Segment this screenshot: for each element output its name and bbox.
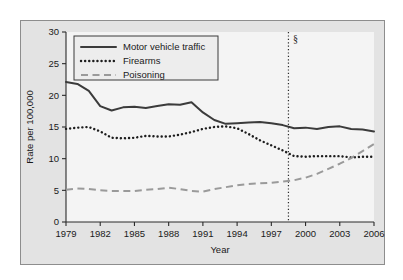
y-tick-label: 20 (48, 90, 59, 101)
legend-label-firearms: Firearms (123, 55, 161, 66)
x-tick-label: 1994 (227, 228, 248, 239)
line-chart: 051015202530 197919821985198819911994199… (0, 0, 403, 280)
y-axis-ticks: 051015202530 (48, 26, 66, 227)
x-tick-label: 1997 (261, 228, 282, 239)
y-tick-label: 5 (54, 185, 59, 196)
y-axis-title: Rate per 100,000 (24, 90, 35, 163)
x-tick-label: 1988 (158, 228, 179, 239)
x-tick-label: 2000 (295, 228, 316, 239)
x-tick-label: 1979 (55, 228, 76, 239)
y-tick-label: 15 (48, 121, 59, 132)
y-tick-label: 25 (48, 58, 59, 69)
x-tick-label: 1991 (192, 228, 213, 239)
y-tick-label: 10 (48, 153, 59, 164)
x-tick-label: 1982 (90, 228, 111, 239)
x-axis-title: Year (210, 244, 229, 255)
x-tick-label: 2003 (329, 228, 350, 239)
y-tick-label: 30 (48, 26, 59, 37)
legend-label-motor-vehicle-traffic: Motor vehicle traffic (123, 41, 205, 52)
x-tick-label: 2006 (363, 228, 384, 239)
y-tick-label: 0 (54, 216, 59, 227)
figure: 051015202530 197919821985198819911994199… (0, 0, 403, 280)
legend-label-poisoning: Poisoning (123, 69, 165, 80)
chart-legend: Motor vehicle trafficFirearmsPoisoning (74, 36, 218, 80)
x-tick-label: 1985 (124, 228, 145, 239)
coding-change-symbol: § (293, 33, 298, 44)
x-axis-ticks: 1979198219851988199119941997200020032006 (55, 222, 384, 239)
